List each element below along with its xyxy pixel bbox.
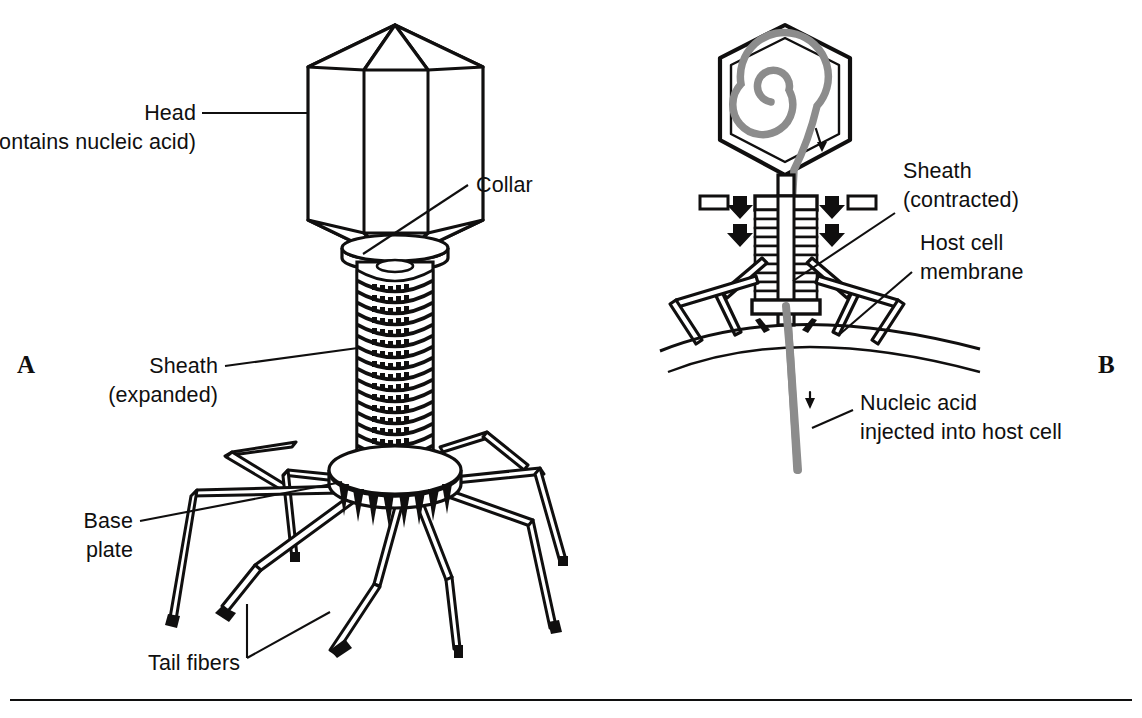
panel-letter-a: A	[17, 351, 35, 378]
leader-sheath	[225, 348, 358, 366]
label-sheath-line1: Sheath	[149, 354, 218, 378]
panel-b-group: Sheath (contracted) Host cell membrane N…	[660, 25, 1115, 470]
label-sheath-line2: (expanded)	[108, 383, 218, 407]
leader-nucleic-acid	[812, 410, 853, 428]
label-collar: Collar	[476, 173, 533, 197]
label-sheath-c-line2: (contracted)	[903, 188, 1019, 212]
label-nucleic-line1: Nucleic acid	[860, 391, 977, 415]
label-base-line2: plate	[86, 538, 133, 562]
host-cell-membrane-b	[660, 324, 980, 372]
label-sheath-c-line1: Sheath	[903, 159, 972, 183]
panel-letter-b: B	[1098, 351, 1115, 378]
nucleic-flow-arrowhead-2	[805, 398, 815, 409]
label-nucleic-line2: injected into host cell	[860, 420, 1062, 444]
leader-tail-2	[247, 612, 330, 658]
label-host-line2: membrane	[920, 260, 1024, 284]
label-base-line1: Base	[84, 509, 133, 533]
label-tail-fibers: Tail fibers	[148, 651, 240, 675]
phage-head-a	[308, 25, 483, 262]
phage-diagram-svg: Head (contains nucleic acid) Collar Shea…	[0, 0, 1142, 718]
label-head-line1: Head	[144, 101, 196, 125]
label-head-line2: (contains nucleic acid)	[0, 130, 196, 154]
label-host-line1: Host cell	[920, 231, 1003, 255]
panel-a-group: Head (contains nucleic acid) Collar Shea…	[0, 25, 568, 675]
figure-container: Head (contains nucleic acid) Collar Shea…	[0, 0, 1142, 718]
phage-head-b	[720, 25, 850, 175]
